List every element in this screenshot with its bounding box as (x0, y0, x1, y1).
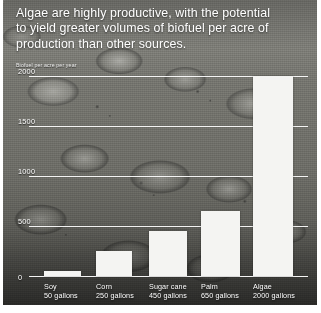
bar-soy (44, 271, 81, 276)
x-label-palm: Palm650 gallons (201, 282, 239, 300)
y-tick-label-1000: 1000 (18, 168, 35, 176)
x-label-value: 450 gallons (149, 291, 187, 300)
bar-algae (253, 76, 293, 276)
x-label-corn: Corn250 gallons (96, 282, 134, 300)
y-tick-label-1500: 1500 (18, 118, 35, 126)
x-label-name: Algae (253, 282, 295, 291)
x-label-soy: Soy50 gallons (44, 282, 78, 300)
x-label-value: 50 gallons (44, 291, 78, 300)
x-label-name: Soy (44, 282, 78, 291)
y-tick-label-0: 0 (18, 274, 22, 282)
chart-title-line-2: to yield greater volumes of biofuel per … (16, 21, 304, 36)
bar-sugar-cane (149, 231, 187, 276)
x-label-value: 650 gallons (201, 291, 239, 300)
chart-title-line-3: production than other sources. (16, 37, 304, 52)
x-label-sugar-cane: Sugar cane450 gallons (149, 282, 187, 300)
y-tick-label-2000: 2000 (18, 68, 35, 76)
x-label-name: Sugar cane (149, 282, 187, 291)
bar-palm (201, 211, 240, 276)
x-label-algae: Algae2000 gallons (253, 282, 295, 300)
chart-title: Algae are highly productive, with the po… (16, 6, 304, 52)
x-label-value: 2000 gallons (253, 291, 295, 300)
bar-corn (96, 251, 132, 276)
chart-title-line-1: Algae are highly productive, with the po… (16, 6, 304, 21)
y-tick-label-500: 500 (18, 218, 31, 226)
x-axis-baseline (29, 276, 308, 277)
x-label-name: Corn (96, 282, 134, 291)
x-label-value: 250 gallons (96, 291, 134, 300)
infographic-figure: Algae are highly productive, with the po… (3, 0, 317, 305)
x-label-name: Palm (201, 282, 239, 291)
